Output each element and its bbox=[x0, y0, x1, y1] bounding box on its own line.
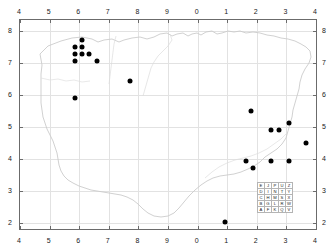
axis-tick-top bbox=[316, 20, 317, 23]
legend-cell: Q bbox=[279, 207, 286, 213]
axis-label-bottom: 8 bbox=[135, 237, 139, 244]
record-dot bbox=[95, 59, 100, 64]
record-dot bbox=[249, 109, 254, 114]
axis-label-left: 3 bbox=[8, 187, 12, 194]
record-dot bbox=[80, 38, 85, 43]
axis-label-top: 4 bbox=[17, 8, 21, 15]
axis-label-top: 0 bbox=[195, 8, 199, 15]
legend-cell: A bbox=[258, 207, 265, 213]
axis-label-top: 3 bbox=[283, 8, 287, 15]
record-dot bbox=[244, 159, 249, 164]
axis-label-right: 8 bbox=[322, 27, 326, 34]
record-dot bbox=[223, 220, 228, 225]
axis-label-bottom: 5 bbox=[47, 237, 51, 244]
axis-label-bottom: 2 bbox=[254, 237, 258, 244]
legend-cell: K bbox=[272, 207, 279, 213]
axis-label-bottom: 0 bbox=[195, 237, 199, 244]
axis-tick-bottom bbox=[316, 226, 317, 229]
axis-label-left: 5 bbox=[8, 123, 12, 130]
record-dot bbox=[287, 159, 292, 164]
axis-label-right: 3 bbox=[322, 187, 326, 194]
axis-label-right: 7 bbox=[322, 59, 326, 66]
record-dot bbox=[73, 52, 78, 57]
axis-label-right: 2 bbox=[322, 219, 326, 226]
axis-label-bottom: 4 bbox=[17, 237, 21, 244]
axis-label-bottom: 3 bbox=[283, 237, 287, 244]
record-dot bbox=[73, 96, 78, 101]
record-dot bbox=[269, 159, 274, 164]
utm-letter-legend-grid: E J P U Z D I N T Y C H M S X B G L R W bbox=[257, 182, 293, 213]
record-dot bbox=[73, 45, 78, 50]
legend-cell: V bbox=[286, 207, 293, 213]
axis-label-top: 4 bbox=[313, 8, 317, 15]
axis-label-bottom: 1 bbox=[224, 237, 228, 244]
axis-label-top: 6 bbox=[76, 8, 80, 15]
axis-label-top: 2 bbox=[254, 8, 258, 15]
axis-label-right: 4 bbox=[322, 155, 326, 162]
record-dot bbox=[80, 45, 85, 50]
record-dot bbox=[128, 79, 133, 84]
axis-label-left: 8 bbox=[8, 27, 12, 34]
record-dot bbox=[287, 121, 292, 126]
record-dot bbox=[277, 128, 282, 133]
axis-label-bottom: 4 bbox=[313, 237, 317, 244]
axis-label-top: 8 bbox=[135, 8, 139, 15]
axis-label-left: 7 bbox=[8, 59, 12, 66]
record-dot bbox=[304, 141, 309, 146]
record-dot bbox=[269, 128, 274, 133]
axis-label-top: 1 bbox=[224, 8, 228, 15]
axis-label-bottom: 7 bbox=[106, 237, 110, 244]
axis-label-top: 5 bbox=[47, 8, 51, 15]
axis-label-right: 6 bbox=[322, 91, 326, 98]
axis-label-bottom: 6 bbox=[76, 237, 80, 244]
record-dot bbox=[80, 52, 85, 57]
legend-cell: F bbox=[265, 207, 272, 213]
record-dot bbox=[87, 52, 92, 57]
legend-row: A F K Q V bbox=[258, 207, 293, 213]
axis-label-right: 5 bbox=[322, 123, 326, 130]
axis-label-top: 9 bbox=[165, 8, 169, 15]
record-dot bbox=[73, 59, 78, 64]
record-dot bbox=[251, 166, 256, 171]
distribution-map-figure: 4 5 6 7 8 9 0 1 2 3 4 4 5 6 7 8 9 0 1 2 … bbox=[0, 0, 336, 249]
axis-label-bottom: 9 bbox=[165, 237, 169, 244]
axis-label-top: 7 bbox=[106, 8, 110, 15]
axis-label-left: 6 bbox=[8, 91, 12, 98]
axis-label-left: 4 bbox=[8, 155, 12, 162]
axis-label-left: 2 bbox=[8, 219, 12, 226]
